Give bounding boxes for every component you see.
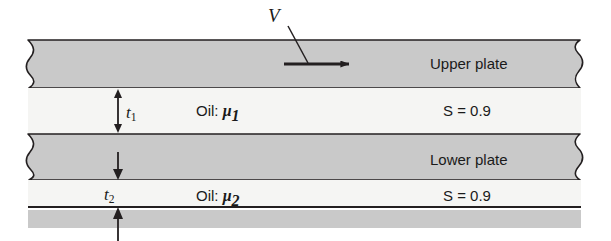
oil-layer-2-prefix: Oil: [196, 187, 223, 204]
oil-layer-1-shape [28, 88, 581, 134]
velocity-label: V [268, 6, 280, 25]
oil-layer-1-viscosity-symbol: μ [223, 102, 232, 119]
oil-layer-2-viscosity-subscript: 2 [232, 192, 240, 209]
specific-gravity-top-label: S = 0.9 [443, 103, 491, 118]
diagram-canvas [0, 0, 611, 241]
oil-layer-2-viscosity-symbol: μ [223, 187, 232, 204]
oil-layer-2-label: Oil: μ2 [196, 188, 240, 209]
oil-layer-1-viscosity-subscript: 1 [232, 107, 240, 124]
thickness-2-subscript: 2 [109, 193, 115, 206]
oil-layer-1-label: Oil: μ1 [196, 103, 240, 124]
base-surface-shape [28, 210, 581, 228]
thickness-1-label: t1 [126, 104, 137, 124]
lower-plate-label: Lower plate [430, 152, 508, 167]
thickness-2-label: t2 [104, 186, 115, 206]
specific-gravity-bottom-label: S = 0.9 [443, 188, 491, 203]
upper-plate-label: Upper plate [430, 56, 508, 71]
thickness-1-subscript: 1 [131, 111, 137, 124]
fluid-mechanics-diagram: V Upper plate Lower plate Oil: μ1 Oil: μ… [0, 0, 611, 241]
oil-layer-1-prefix: Oil: [196, 102, 223, 119]
